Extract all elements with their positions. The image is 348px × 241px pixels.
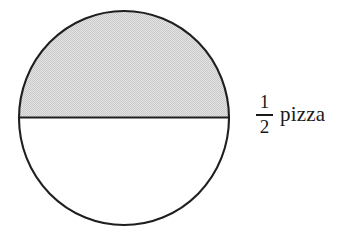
unit-label: pizza — [280, 104, 325, 125]
fraction-one-half: 1 2 — [256, 92, 273, 138]
fraction-numerator: 1 — [258, 92, 272, 113]
fraction-denominator: 2 — [258, 117, 272, 138]
figure-canvas: 1 2 pizza — [0, 0, 348, 241]
fraction-label: 1 2 pizza — [256, 92, 325, 138]
